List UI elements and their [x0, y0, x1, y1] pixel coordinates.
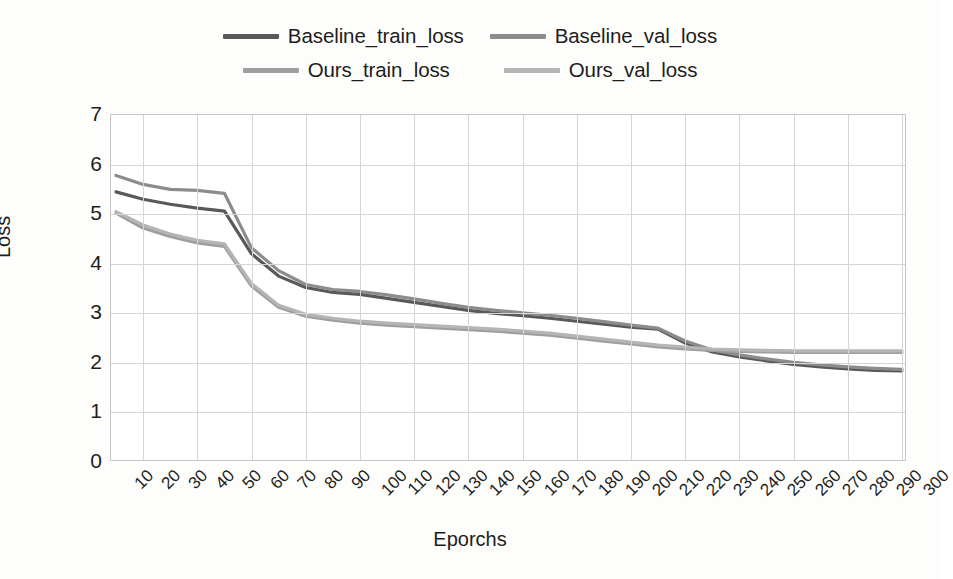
- plot-area: [110, 114, 906, 461]
- legend-entry[interactable]: Baseline_train_loss: [223, 24, 464, 48]
- y-axis-tick-label: 6: [90, 152, 102, 176]
- legend-label: Ours_val_loss: [569, 58, 698, 82]
- vertical-gridline: [197, 115, 198, 460]
- x-axis-tick-label: 10: [131, 466, 159, 494]
- x-axis-tick-label: 90: [347, 466, 375, 494]
- horizontal-gridline: [111, 412, 905, 413]
- legend-entry[interactable]: Ours_train_loss: [243, 58, 450, 82]
- y-axis-tick-label: 2: [90, 350, 102, 374]
- vertical-gridline: [306, 115, 307, 460]
- y-axis-tick-label: 7: [90, 102, 102, 126]
- vertical-gridline: [794, 115, 795, 460]
- vertical-gridline: [902, 115, 903, 460]
- y-axis-title: Loss: [0, 216, 15, 258]
- legend-row: Baseline_train_lossBaseline_val_loss: [223, 24, 717, 48]
- y-axis-tick-label: 1: [90, 399, 102, 423]
- vertical-gridline: [848, 115, 849, 460]
- x-axis-tick-label: 300: [919, 466, 953, 500]
- vertical-gridline: [468, 115, 469, 460]
- legend-label: Baseline_train_loss: [288, 24, 464, 48]
- x-axis-tick-label: 30: [185, 466, 213, 494]
- x-axis-tick-label: 60: [266, 466, 294, 494]
- x-axis-tick-label: 110: [404, 466, 437, 499]
- vertical-gridline: [252, 115, 253, 460]
- vertical-gridline: [739, 115, 740, 460]
- chart-legend: Baseline_train_lossBaseline_val_lossOurs…: [0, 24, 940, 82]
- vertical-gridline: [143, 115, 144, 460]
- x-axis-tick-label: 80: [320, 466, 348, 494]
- horizontal-gridline: [111, 264, 905, 265]
- x-axis-tick-label: 20: [158, 466, 186, 494]
- vertical-gridline: [414, 115, 415, 460]
- horizontal-gridline: [111, 165, 905, 166]
- x-axis-tick-label: 50: [239, 466, 267, 494]
- legend-entry[interactable]: Ours_val_loss: [504, 58, 698, 82]
- y-axis-tick-label: 3: [90, 300, 102, 324]
- y-axis-tick-label: 0: [90, 449, 102, 473]
- y-axis-tick-labels: 76543210: [62, 114, 102, 461]
- vertical-gridline: [523, 115, 524, 460]
- legend-line-swatch-icon: [223, 34, 279, 39]
- vertical-gridline: [360, 115, 361, 460]
- x-axis-tick-labels: 1020304050607080901001101201301401501601…: [110, 466, 906, 526]
- x-axis-tick-label: 70: [293, 466, 321, 494]
- series-line-Ours_val_loss: [116, 212, 902, 351]
- legend-line-swatch-icon: [490, 34, 546, 39]
- legend-label: Baseline_val_loss: [555, 24, 717, 48]
- series-lines: [111, 115, 906, 461]
- x-axis-tick-label: 40: [212, 466, 240, 494]
- legend-row: Ours_train_lossOurs_val_loss: [243, 58, 698, 82]
- vertical-gridline: [685, 115, 686, 460]
- legend-label: Ours_train_loss: [308, 58, 450, 82]
- horizontal-gridline: [111, 363, 905, 364]
- y-axis-tick-label: 5: [90, 201, 102, 225]
- plot-wrapper: [110, 114, 906, 461]
- y-axis-tick-label: 4: [90, 251, 102, 275]
- vertical-gridline: [577, 115, 578, 460]
- series-line-Baseline_train_loss: [116, 192, 902, 371]
- x-axis-title: Eporchs: [0, 528, 940, 551]
- legend-line-swatch-icon: [504, 68, 560, 73]
- legend-line-swatch-icon: [243, 68, 299, 73]
- series-line-Baseline_val_loss: [116, 175, 902, 369]
- horizontal-gridline: [111, 214, 905, 215]
- horizontal-gridline: [111, 313, 905, 314]
- vertical-gridline: [631, 115, 632, 460]
- legend-entry[interactable]: Baseline_val_loss: [490, 24, 717, 48]
